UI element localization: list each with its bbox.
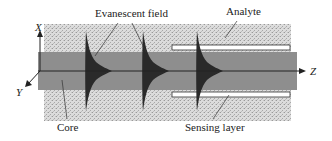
analyte-label: Analyte: [226, 5, 261, 17]
sensing-layer-bottom: [172, 92, 290, 97]
sensing-layer-top: [172, 45, 290, 50]
core-label: Core: [57, 121, 79, 133]
fiber-sensor-diagram: Z X Y Evanescent field Analyte Core Sens…: [0, 0, 332, 141]
sensing-layer-label: Sensing layer: [185, 121, 245, 133]
z-axis-arrowhead: [299, 68, 306, 74]
y-axis-label: Y: [16, 86, 24, 98]
x-axis-label: X: [34, 21, 43, 33]
z-axis-label: Z: [310, 65, 317, 77]
evanescent-field-label: Evanescent field: [95, 7, 168, 19]
